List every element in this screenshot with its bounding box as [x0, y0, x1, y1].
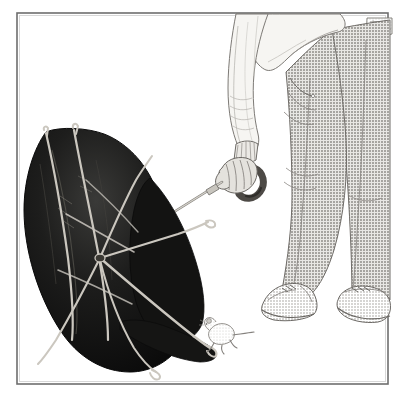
illustration-canvas: Man holding a collapsed black umbrella w…	[0, 0, 403, 399]
illustration-frame	[0, 0, 403, 399]
rib-hub	[95, 254, 105, 262]
illustration-svg	[0, 0, 403, 399]
